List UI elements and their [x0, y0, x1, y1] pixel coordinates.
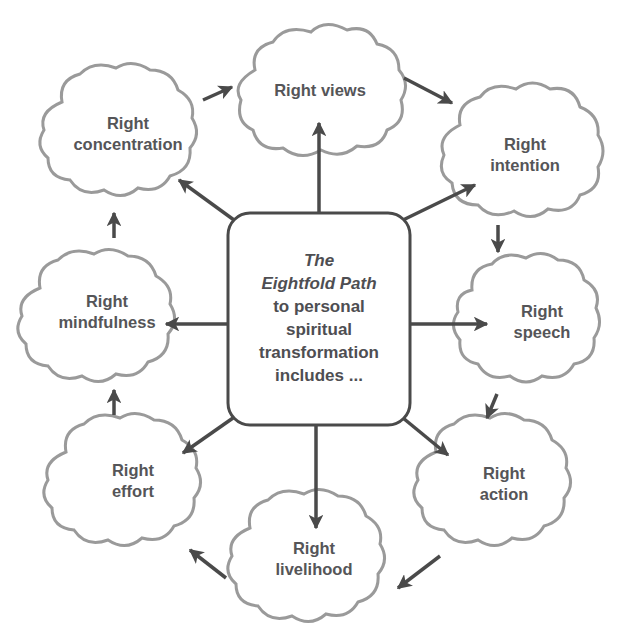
center-line-5: transformation	[259, 341, 379, 364]
center-line-1: The	[259, 249, 379, 272]
arrow-views-to-intention	[404, 78, 452, 103]
label-right-concentration: Right concentration	[73, 113, 182, 155]
label-line: concentration	[73, 134, 182, 155]
center-line-2: Eightfold Path	[259, 272, 379, 295]
label-right-intention: Right intention	[490, 134, 560, 176]
label-right-livelihood: Right livelihood	[275, 538, 352, 580]
arrow-action-to-livelihood	[398, 556, 440, 588]
label-line: effort	[112, 481, 154, 502]
label-line: Right	[275, 538, 352, 559]
label-line: action	[480, 484, 529, 505]
arrow-to-effort	[183, 418, 233, 453]
label-right-mindfulness: Right mindfulness	[58, 291, 155, 333]
label-line: Right	[480, 463, 529, 484]
label-line: intention	[490, 155, 560, 176]
label-right-effort: Right effort	[112, 460, 154, 502]
label-line: Right	[58, 291, 155, 312]
label-line: mindfulness	[58, 312, 155, 333]
label-right-speech: Right speech	[514, 301, 571, 343]
center-line-6: includes ...	[259, 364, 379, 387]
label-line: Right views	[274, 80, 366, 101]
label-line: livelihood	[275, 559, 352, 580]
label-line: Right	[514, 301, 571, 322]
label-right-action: Right action	[480, 463, 529, 505]
arrow-livelihood-to-effort	[190, 550, 226, 578]
label-right-views: Right views	[274, 80, 366, 101]
center-line-3: to personal	[259, 295, 379, 318]
label-line: Right	[73, 113, 182, 134]
arrow-to-concentration	[179, 180, 234, 220]
arrow-concentration-to-views	[203, 87, 232, 100]
label-line: Right	[112, 460, 154, 481]
center-caption: The Eightfold Path to personal spiritual…	[259, 249, 379, 387]
label-line: Right	[490, 134, 560, 155]
center-line-4: spiritual	[259, 318, 379, 341]
label-line: speech	[514, 322, 571, 343]
